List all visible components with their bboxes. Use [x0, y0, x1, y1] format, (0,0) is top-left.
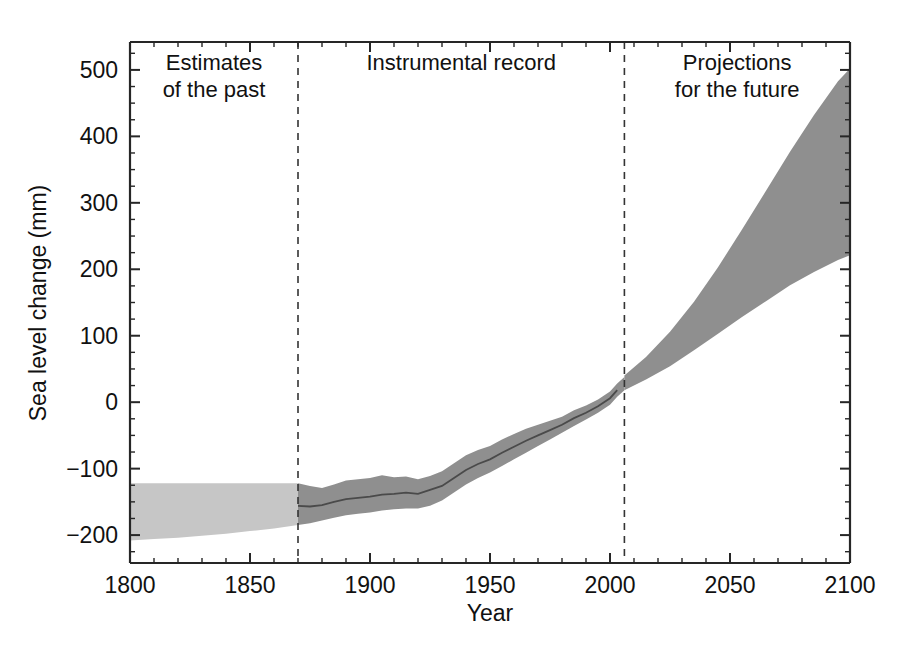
projections-for-the-future-line1: Projections [683, 50, 792, 75]
sea-level-change-chart: 1800185019001950200020502100−200−1000100… [0, 0, 900, 653]
y-tick-label--100: −100 [66, 456, 118, 482]
y-axis-title: Sea level change (mm) [25, 185, 51, 422]
y-tick-label-200: 200 [80, 256, 118, 282]
y-tick-label-400: 400 [80, 123, 118, 149]
x-tick-label-1800: 1800 [104, 572, 155, 598]
instrumental-record-line1: Instrumental record [366, 50, 556, 75]
x-tick-label-2000: 2000 [584, 572, 635, 598]
x-tick-label-1900: 1900 [344, 572, 395, 598]
projections-for-the-future-line2: for the future [675, 77, 800, 102]
x-tick-label-2050: 2050 [704, 572, 755, 598]
y-tick-label-0: 0 [105, 389, 118, 415]
y-tick-label-300: 300 [80, 190, 118, 216]
estimates-of-the-past-line2: of the past [163, 77, 266, 102]
estimates-of-the-past-line1: Estimates [166, 50, 263, 75]
y-tick-label-500: 500 [80, 57, 118, 83]
x-axis-title: Year [467, 600, 514, 626]
chart-canvas: 1800185019001950200020502100−200−1000100… [0, 0, 900, 653]
x-tick-label-1850: 1850 [224, 572, 275, 598]
y-tick-label--200: −200 [66, 522, 118, 548]
x-tick-label-1950: 1950 [464, 572, 515, 598]
x-tick-label-2100: 2100 [824, 572, 875, 598]
y-tick-label-100: 100 [80, 323, 118, 349]
